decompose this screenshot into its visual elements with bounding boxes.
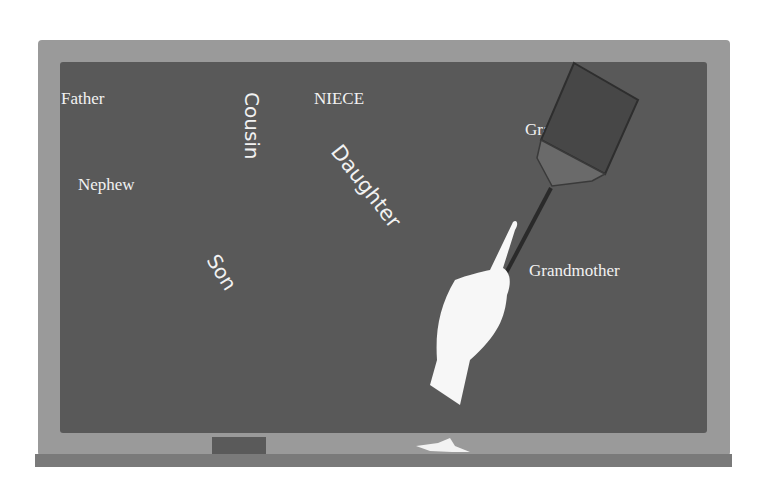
fly-swatter-icon[interactable] (496, 63, 638, 292)
chalk-tray (35, 454, 732, 467)
pointing-hand-icon (430, 221, 517, 405)
eraser-icon[interactable] (212, 437, 266, 454)
chalk-icon (416, 438, 470, 452)
illustration-layer (0, 0, 769, 495)
